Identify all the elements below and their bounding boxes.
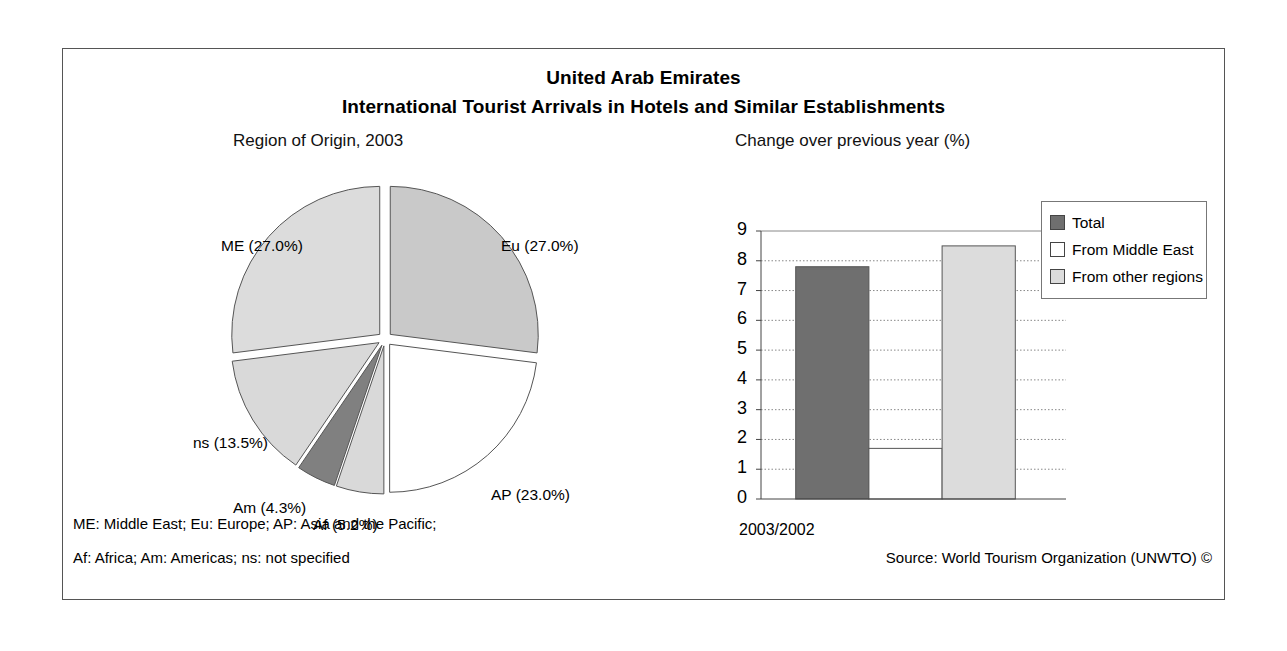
legend-swatch-from-middle-east [1050, 242, 1065, 257]
bar-series [796, 246, 1016, 499]
bar-chart-legend: Total From Middle East From other region… [1041, 201, 1207, 299]
pie-slices [232, 186, 539, 494]
pie-label-me: ME (27.0%) [221, 237, 303, 255]
y-axis-tick-label-8: 8 [723, 249, 747, 270]
bar-chart: 0123456789 2003/2002 [643, 159, 1073, 559]
pie-slice-eu [390, 186, 538, 353]
legend-swatch-total [1050, 215, 1065, 230]
y-axis-tick-label-6: 6 [723, 308, 747, 329]
pie-chart-svg [173, 159, 673, 539]
bar-chart-svg [643, 159, 1073, 559]
legend-swatch-from-other-regions [1050, 269, 1065, 284]
pie-slice-me [232, 186, 380, 353]
bar-from-middle-east [869, 448, 942, 499]
chart-title-line2: International Tourist Arrivals in Hotels… [63, 96, 1224, 118]
pie-chart: Eu (27.0%) AP (23.0%) Af (5.2%) Am (4.3%… [173, 159, 673, 539]
figure-frame: United Arab Emirates International Touri… [62, 48, 1225, 600]
footnote-line2: Af: Africa; Am: Americas; ns: not specif… [73, 549, 350, 566]
y-axis-tick-label-4: 4 [723, 368, 747, 389]
legend-label-from-other-regions: From other regions [1072, 268, 1203, 286]
legend-item-from-middle-east: From Middle East [1050, 236, 1198, 263]
legend-item-total: Total [1050, 209, 1198, 236]
pie-label-ap: AP (23.0%) [491, 486, 570, 504]
y-axis-tick-label-3: 3 [723, 398, 747, 419]
legend-item-from-other-regions: From other regions [1050, 263, 1198, 290]
y-axis-tick-label-0: 0 [723, 487, 747, 508]
pie-label-ns: ns (13.5%) [193, 434, 268, 452]
bar-total [796, 267, 869, 499]
pie-subtitle: Region of Origin, 2003 [233, 131, 403, 151]
bar-from-other-regions [942, 246, 1015, 499]
y-axis-tick-label-7: 7 [723, 279, 747, 300]
pie-label-eu: Eu (27.0%) [501, 237, 579, 255]
legend-label-from-middle-east: From Middle East [1072, 241, 1193, 259]
y-axis-tick-label-2: 2 [723, 427, 747, 448]
x-axis-label: 2003/2002 [739, 521, 815, 539]
pie-slice-ap [390, 344, 537, 492]
y-axis-tick-label-1: 1 [723, 457, 747, 478]
y-axis-tick-label-9: 9 [723, 219, 747, 240]
source-note: Source: World Tourism Organization (UNWT… [886, 549, 1212, 566]
y-axis-tick-label-5: 5 [723, 338, 747, 359]
legend-label-total: Total [1072, 214, 1105, 232]
chart-title-line1: United Arab Emirates [63, 67, 1224, 89]
footnote-line1: ME: Middle East; Eu: Europe; AP: Asia an… [73, 515, 437, 532]
bar-subtitle: Change over previous year (%) [735, 131, 970, 151]
